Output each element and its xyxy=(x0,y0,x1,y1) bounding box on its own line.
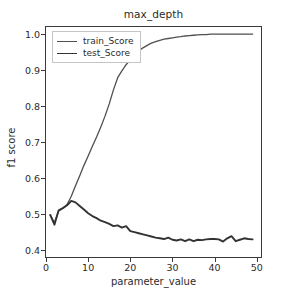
y-tick-label: 0.4 xyxy=(16,244,40,255)
x-tick-mark xyxy=(172,258,173,262)
x-tick-label: 10 xyxy=(73,262,103,273)
legend-item-train-score: train_Score xyxy=(57,35,134,47)
y-tick-label: 0.6 xyxy=(16,172,40,183)
x-tick-mark xyxy=(88,258,89,262)
x-tick-mark xyxy=(215,258,216,262)
legend-item-test-score: test_Score xyxy=(57,47,134,59)
x-tick-label: 0 xyxy=(31,262,61,273)
series-line-test-score xyxy=(50,201,252,242)
legend-swatch-train-score xyxy=(57,41,77,42)
x-axis-label: parameter_value xyxy=(45,276,262,287)
legend-label-test-score: test_Score xyxy=(83,48,130,58)
chart-title: max_depth xyxy=(45,8,262,20)
y-tick-label: 1.0 xyxy=(16,29,40,40)
x-tick-label: 20 xyxy=(115,262,145,273)
x-tick-label: 40 xyxy=(200,262,230,273)
x-tick-label: 50 xyxy=(242,262,272,273)
legend-swatch-test-score xyxy=(57,53,77,54)
y-axis-tick-labels: 0.40.50.60.70.80.91.0 xyxy=(12,0,40,296)
legend-label-train-score: train_Score xyxy=(83,36,134,46)
figure: max_depth f1 score parameter_value 0.40.… xyxy=(0,0,281,296)
x-tick-mark xyxy=(46,258,47,262)
y-tick-label: 0.7 xyxy=(16,137,40,148)
x-tick-mark xyxy=(130,258,131,262)
y-tick-label: 0.9 xyxy=(16,65,40,76)
legend: train_Score test_Score xyxy=(52,31,141,63)
x-tick-mark xyxy=(257,258,258,262)
y-tick-label: 0.5 xyxy=(16,208,40,219)
y-tick-label: 0.8 xyxy=(16,101,40,112)
plot-area: train_Score test_Score xyxy=(45,26,262,258)
x-tick-label: 30 xyxy=(157,262,187,273)
